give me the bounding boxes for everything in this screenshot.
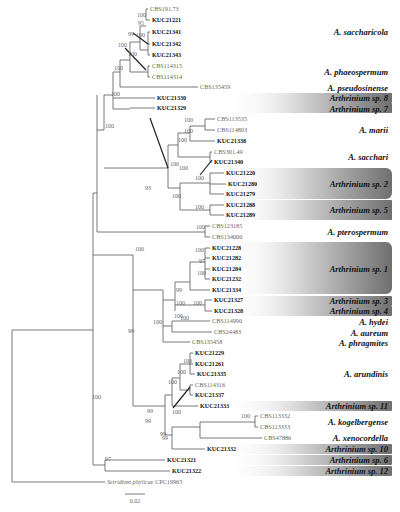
species-label: A. hydei: [358, 317, 388, 327]
support-value: 100: [195, 247, 204, 253]
support-value: 99: [162, 435, 168, 441]
support-value: 100: [176, 300, 185, 306]
support-value: 100: [135, 246, 144, 252]
tip-label: KUC21332: [207, 445, 236, 452]
phylogenetic-tree: 1009599100100100100100100100100100100100…: [0, 0, 400, 512]
species-label: Arthrinium sp. 6: [329, 455, 389, 465]
support-value: 100: [128, 51, 137, 57]
species-label: Arthrinium sp. 3: [329, 296, 389, 306]
support-value: 99: [145, 418, 151, 424]
tip-label: KUC21229: [195, 349, 224, 356]
scale-bar: 0.02: [125, 494, 145, 504]
support-value: 100: [118, 42, 127, 48]
support-value: 100: [195, 204, 204, 210]
support-value: 100: [179, 165, 188, 171]
support-value: 99: [147, 408, 153, 414]
species-label: Arthrinium sp. 12: [324, 466, 388, 476]
tip-label: CBS113332: [260, 412, 290, 419]
support-value: 100: [172, 409, 181, 415]
support-value: 100: [183, 358, 192, 364]
tip-label: KUC21280: [228, 180, 257, 187]
species-label: A. sacchari: [347, 152, 388, 162]
support-value: 100: [180, 315, 189, 321]
species-label: Arthrinium sp. 11: [325, 401, 388, 411]
scale-bar-label: 0.02: [130, 498, 141, 504]
species-label: Arthrinium sp. 7: [329, 104, 389, 114]
tip-label: Seiridium phylicae CPC19965: [107, 478, 182, 485]
tip-label: KUC21261: [195, 360, 224, 367]
support-value: 100: [184, 117, 193, 123]
support-value: 97: [105, 456, 111, 462]
support-value: 95: [138, 20, 144, 26]
support-value: 100: [178, 137, 187, 143]
support-value: 99: [128, 328, 134, 334]
tip-label: KUC21232: [212, 275, 241, 282]
tip-label: CBS24483: [214, 328, 241, 335]
tip-label: CBS134000: [212, 233, 242, 240]
support-value: 100: [195, 175, 204, 181]
support-value: 97: [199, 258, 205, 264]
support-value: 100: [184, 128, 193, 134]
tip-label: KUC21279: [226, 190, 255, 197]
tip-label: CBS114990: [212, 317, 242, 324]
species-label: Arthrinium sp. 2: [329, 179, 389, 189]
support-value: 99: [176, 287, 182, 293]
species-label: Arthrinium sp. 4: [329, 306, 388, 316]
species-label: A. aureum: [350, 328, 389, 338]
support-value: 100: [170, 161, 179, 167]
support-value: 100: [168, 379, 177, 385]
support-value: 100: [172, 193, 181, 199]
tip-label: KUC21282: [212, 254, 241, 261]
tip-label: KUC21342: [152, 40, 181, 47]
support-value: 100: [136, 32, 145, 38]
species-label: A. pterospermum: [327, 227, 389, 237]
tip-label: KUC21220: [226, 169, 255, 176]
tip-label: CBS113333: [260, 423, 290, 430]
tip-label: CBS114315: [152, 62, 182, 69]
tip-label: KUC21289: [226, 211, 255, 218]
species-label: A. saccharicola: [333, 27, 389, 37]
tip-label: CBS135459: [200, 83, 230, 90]
support-value: 100: [92, 394, 101, 400]
tip-label: KUC21221: [152, 16, 181, 23]
species-label: A. marii: [358, 125, 388, 135]
tip-label: KUC21327: [214, 296, 243, 303]
tip-label: CBS114803: [217, 126, 247, 133]
support-value: 100: [241, 413, 250, 419]
support-value: 100: [137, 12, 146, 18]
support-value: 100: [177, 369, 186, 375]
tip-label: KUC21334: [212, 286, 241, 293]
support-value: 100: [196, 224, 205, 230]
tip-label: KUC21343: [152, 51, 181, 58]
tip-label: KUC21333: [200, 402, 229, 409]
tip-label: CBS47886: [264, 434, 291, 441]
tip-label: KUC21341: [152, 28, 181, 35]
species-label: A. arundinis: [343, 369, 389, 379]
tip-label: CBS123185: [212, 222, 242, 229]
species-label: Arthrinium sp. 5: [329, 205, 389, 215]
tip-label: KUC21288: [226, 201, 255, 208]
tip-label: CBS114316: [195, 381, 225, 388]
tip-label: CBS113535: [217, 115, 247, 122]
species-label: Arthrinium sp. 10: [324, 444, 388, 454]
species-label: A. phaeospermum: [323, 67, 388, 77]
species-label: A. phragmites: [338, 338, 389, 348]
tip-label: KUC21338: [217, 137, 246, 144]
tip-label: CBS191.73: [150, 5, 179, 12]
tip-label: KUC21284: [212, 265, 241, 272]
tip-label: CBS301.49: [214, 148, 243, 155]
support-value: 100: [105, 123, 114, 129]
support-value: 100: [111, 91, 120, 97]
tip-label: CBS114314: [152, 73, 182, 80]
tip-label: CBS135458: [192, 338, 222, 345]
tip-label: KUC21337: [195, 391, 224, 398]
support-value: 100: [114, 65, 123, 71]
support-value: 93: [145, 185, 151, 191]
tip-label: KUC21335: [197, 370, 226, 377]
tip-label: KUC21328: [214, 307, 243, 314]
species-label: A. xenocordella: [332, 433, 389, 443]
tip-label: KUC21322: [172, 467, 201, 474]
support-value: 100: [153, 319, 162, 325]
tip-label: KUC21228: [212, 244, 241, 251]
species-label: A. pseudosinense: [327, 83, 389, 93]
